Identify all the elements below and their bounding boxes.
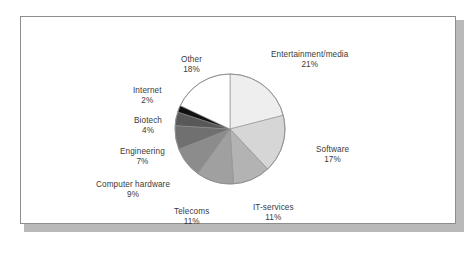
slice-label-name: Internet (133, 86, 162, 96)
slice-label-name: Entertainment/media (271, 50, 348, 60)
slice-label-name: Software (316, 145, 349, 155)
figure-frame: Entertainment/media 21% Software 17% IT-… (20, 16, 456, 224)
slice-label-percent: 4% (134, 126, 162, 136)
pie-chart-svg (21, 17, 455, 223)
slice-label-percent: 11% (253, 213, 294, 223)
slice-label-percent: 17% (316, 155, 349, 165)
slice-label-computer-hardware: Computer hardware 9% (96, 180, 170, 200)
slice-label-internet: Internet 2% (133, 86, 162, 106)
slice-label-name: Computer hardware (96, 180, 170, 190)
slice-label-name: Other (181, 55, 202, 65)
slice-label-name: IT-services (253, 203, 294, 213)
slice-label-other: Other 18% (181, 55, 202, 75)
slice-label-percent: 7% (120, 157, 165, 167)
slice-label-percent: 18% (181, 65, 202, 75)
slice-label-name: Telecoms (174, 207, 209, 217)
slice-label-name: Biotech (134, 116, 162, 126)
slice-label-software: Software 17% (316, 145, 349, 165)
screenshot-canvas: Entertainment/media 21% Software 17% IT-… (0, 0, 476, 255)
slice-label-percent: 9% (96, 190, 170, 200)
slice-label-it-services: IT-services 11% (253, 203, 294, 223)
pie-chart: Entertainment/media 21% Software 17% IT-… (21, 17, 455, 223)
slice-label-biotech: Biotech 4% (134, 116, 162, 136)
slice-label-telecoms: Telecoms 11% (174, 207, 209, 227)
slice-label-entertainment-media: Entertainment/media 21% (271, 50, 348, 70)
slice-label-percent: 11% (174, 217, 209, 227)
pie-slice-group (175, 74, 285, 184)
slice-label-name: Engineering (120, 147, 165, 157)
slice-label-percent: 21% (271, 60, 348, 70)
slice-label-engineering: Engineering 7% (120, 147, 165, 167)
slice-label-percent: 2% (133, 96, 162, 106)
